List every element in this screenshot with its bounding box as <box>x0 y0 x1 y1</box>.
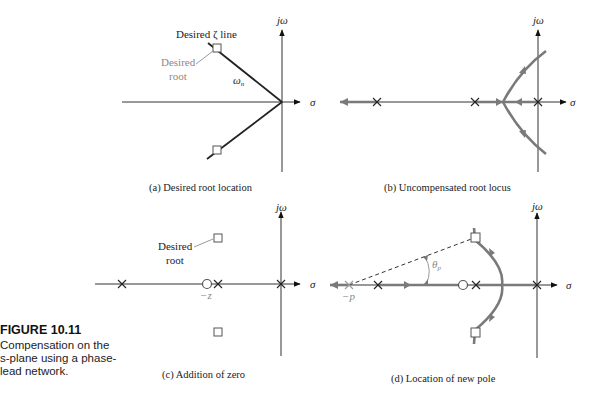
caption-d: (d) Location of new pole <box>391 373 496 385</box>
locus-arrow-left <box>330 281 338 289</box>
desired-root-upper <box>471 233 480 242</box>
zeta-line-label: Desired ζ line <box>176 28 237 41</box>
desired-root-lower <box>214 328 222 336</box>
desired-root-leader <box>196 51 213 64</box>
zero-d <box>459 281 468 290</box>
desired-root-label-line2: root <box>166 254 184 266</box>
wn-label: ωn <box>233 74 245 88</box>
sigma-label: σ <box>566 279 572 291</box>
theta-p-label: θp <box>432 258 441 272</box>
jw-label: jω <box>531 14 544 26</box>
figure-caption: Compensation on the s-plane using a phas… <box>0 339 120 378</box>
locus-arrow-left-inner <box>515 98 522 106</box>
sigma-label: σ <box>310 278 316 290</box>
angle-arc-arrow-top <box>423 255 428 261</box>
locus-arrow-left <box>340 98 348 106</box>
locus-arrow-up-branch <box>489 248 495 256</box>
desired-root-lower <box>471 328 480 337</box>
desired-root-label-line2: root <box>169 70 187 82</box>
angle-arc-arrow-bottom <box>424 279 428 285</box>
desired-root-upper <box>213 44 221 52</box>
sigma-label: σ <box>570 96 576 108</box>
jw-label: jω <box>274 201 287 213</box>
locus-arrow-down-branch <box>519 130 526 138</box>
zero-label: −z <box>200 289 212 301</box>
desired-root-label-line1: Desired <box>161 56 196 68</box>
locus-arrow-down-branch <box>489 314 495 322</box>
desired-root-label-line1: Desired <box>158 240 193 252</box>
caption-b: (b) Uncompensated root locus <box>384 182 511 194</box>
caption-c: (c) Addition of zero <box>162 369 245 381</box>
desired-root-upper <box>214 234 222 242</box>
panel-c: σ jω Desired root −z (c) Addition of zer… <box>95 201 316 381</box>
zero-c <box>203 280 212 289</box>
desired-root-lower <box>213 146 221 154</box>
angle-construction-line <box>349 238 474 285</box>
locus-arrow-up-branch <box>519 66 526 74</box>
panel-d: σ jω θp −p (d) Location of new pole <box>330 200 572 385</box>
figure-number: FIGURE 10.11 <box>0 323 81 337</box>
panel-a: σ jω Desired ζ line Desired root ωn (a) … <box>122 14 316 194</box>
desired-root-leader <box>194 239 213 247</box>
locus-arrow-right <box>404 281 411 289</box>
sigma-label: σ <box>310 96 316 108</box>
jw-label: jω <box>530 200 543 212</box>
caption-a: (a) Desired root location <box>149 182 253 194</box>
panel-b: jω σ (b) Uncompensated root locus <box>340 14 576 194</box>
pole-label: −p <box>342 290 355 302</box>
jw-label: jω <box>275 14 288 26</box>
